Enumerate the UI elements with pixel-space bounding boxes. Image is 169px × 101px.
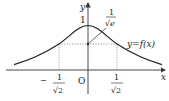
svg-text:√2: √2	[53, 86, 63, 95]
svg-text:√2: √2	[111, 86, 121, 95]
neg-x-label: − 1 √2	[40, 73, 65, 95]
function-label: y=f(x)	[126, 39, 156, 49]
label-leader-line	[88, 28, 106, 44]
svg-text:1: 1	[109, 8, 114, 17]
svg-text:1: 1	[114, 73, 119, 82]
origin-label: O	[78, 76, 85, 86]
peak-value-label: 1	[80, 15, 86, 25]
y-axis-label: y	[79, 2, 86, 12]
pos-x-label: 1 √2	[111, 73, 123, 95]
svg-text:√e: √e	[105, 19, 115, 28]
svg-text:−: −	[40, 76, 47, 85]
inflection-y-label: 1 √e	[105, 8, 116, 28]
x-axis-label: x	[161, 72, 166, 82]
function-graph: y x O 1 1 √e y=f(x) − 1 √2 1 √2	[0, 0, 169, 101]
svg-text:1: 1	[57, 73, 62, 82]
